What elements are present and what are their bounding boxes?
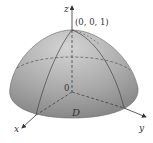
region-d-label: D — [71, 107, 80, 118]
origin-label: 0 — [64, 83, 69, 93]
paraboloid-surface — [10, 30, 138, 118]
z-axis-label: z — [63, 4, 69, 14]
x-axis-solid — [22, 115, 36, 128]
y-axis-label: y — [138, 123, 145, 133]
x-axis-label: x — [14, 124, 19, 134]
y-axis-solid — [124, 108, 146, 117]
diagram-canvas: z (0, 0, 1) 0 D x y — [0, 0, 153, 143]
apex-label: (0, 0, 1) — [75, 17, 109, 27]
paraboloid-diagram: z (0, 0, 1) 0 D x y — [0, 0, 153, 143]
